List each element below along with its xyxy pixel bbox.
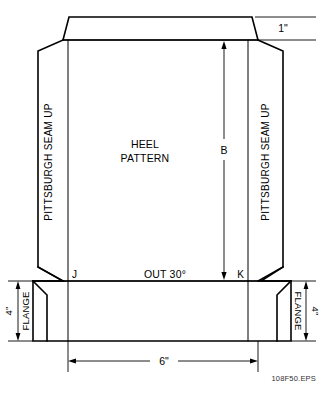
flange-left-arrow-top xyxy=(16,281,21,289)
flange-right-arrow-top xyxy=(304,281,309,289)
flange-label-right: FLANGE xyxy=(293,291,304,330)
right-flange-taper xyxy=(277,281,291,341)
out-angle-note: OUT 30° xyxy=(144,268,186,280)
flange-left-arrow-bottom xyxy=(16,333,21,341)
dimension-top-flap-label: 1" xyxy=(278,22,288,34)
dimension-flange-left-label: 4" xyxy=(3,306,14,315)
pattern-title-line1: HEEL xyxy=(131,138,159,150)
width-arrow-right xyxy=(250,359,258,364)
pattern-title-line2: PATTERN xyxy=(121,152,170,164)
dimension-b-label: B xyxy=(220,144,227,156)
dimension-width-label: 6" xyxy=(159,355,169,367)
figure-caption: 108F50.EPS xyxy=(271,374,316,383)
technical-drawing-canvas: 1" B HEEL PATTERN OUT 30° J K PITTSBURGH… xyxy=(0,0,324,394)
dimension-flange-right-label: 4" xyxy=(310,306,321,315)
left-flange-taper xyxy=(33,281,47,341)
flange-right-arrow-bottom xyxy=(304,333,309,341)
top-flap-outline xyxy=(63,17,258,40)
side-note-left: PITTSBURGH SEAM UP xyxy=(43,103,54,221)
heel-pattern-drawing: 1" B HEEL PATTERN OUT 30° J K PITTSBURGH… xyxy=(0,0,324,394)
dimension-b-arrow-bottom xyxy=(221,272,226,280)
side-note-right: PITTSBURGH SEAM UP xyxy=(260,103,271,221)
point-label-j: J xyxy=(72,269,77,280)
right-notch-wedge xyxy=(261,267,291,281)
flange-label-left: FLANGE xyxy=(20,291,31,330)
left-notch-wedge xyxy=(33,267,63,281)
dimension-b-arrow-top xyxy=(221,41,226,49)
flange-box-outline xyxy=(33,281,291,341)
point-label-k: K xyxy=(237,269,244,280)
width-arrow-left xyxy=(68,359,76,364)
